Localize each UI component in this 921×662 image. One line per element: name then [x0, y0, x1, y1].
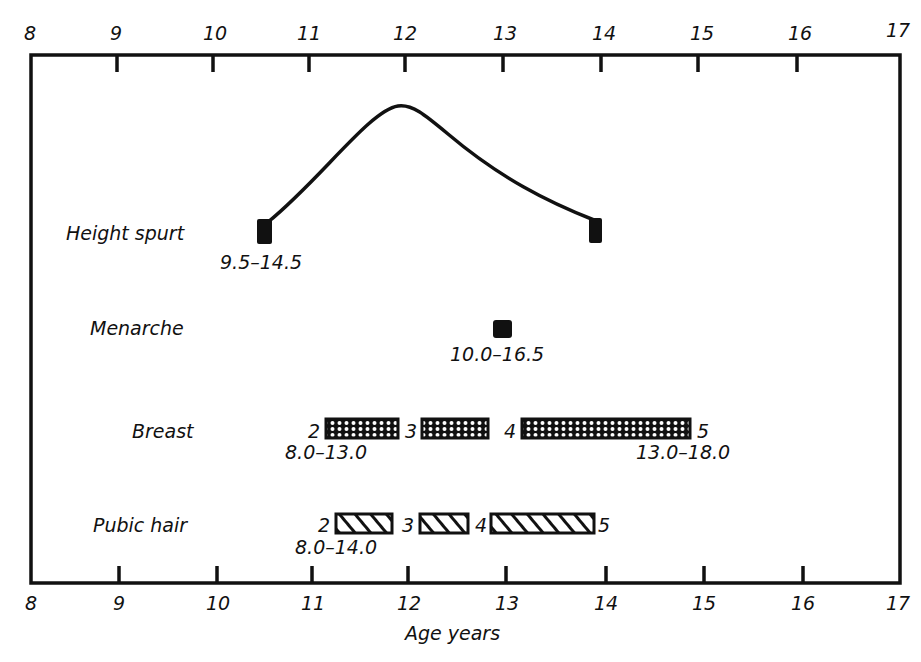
tick-label: 15 [692, 592, 716, 614]
range-label: 13.0–18.0 [636, 441, 730, 463]
breast-row: Breast 2 3 4 5 8.0–13.0 13.0–18.0 [132, 419, 730, 463]
tick-label: 17 [886, 19, 910, 41]
stage-label: 3 [405, 420, 417, 442]
top-axis-ticks [117, 55, 797, 72]
x-axis-title: Age years [403, 622, 500, 644]
pubic-hair-row: Pubic hair 2 3 4 5 8.0–14.0 [93, 514, 610, 558]
tick-label: 12 [393, 22, 417, 44]
range-label: 9.5–14.5 [220, 251, 302, 273]
row-label: Breast [132, 420, 195, 442]
row-label: Pubic hair [93, 514, 188, 536]
breast-stage-bar-3-4 [422, 419, 488, 438]
top-axis-labels: 8 9 10 11 12 13 14 15 16 17 [24, 19, 910, 44]
tick-label: 11 [297, 22, 321, 44]
tick-label: 10 [206, 592, 230, 614]
stage-label: 4 [475, 514, 487, 536]
range-label: 8.0–13.0 [285, 441, 367, 463]
row-label: Height spurt [66, 222, 186, 244]
menarche-marker [493, 320, 512, 338]
tick-label: 10 [203, 22, 227, 44]
puberty-timeline-chart: 8 9 10 11 12 13 14 15 16 17 8 9 10 11 12… [0, 0, 921, 662]
tick-label: 12 [397, 592, 421, 614]
range-label: 10.0–16.5 [450, 343, 544, 365]
height-spurt-end-marker [589, 218, 602, 243]
tick-label: 9 [113, 592, 125, 614]
stage-label: 4 [504, 420, 516, 442]
pubic-stage-bar-3-4 [420, 514, 468, 533]
height-spurt-curve [268, 106, 594, 222]
tick-label: 16 [788, 22, 812, 44]
tick-label: 13 [495, 592, 519, 614]
tick-label: 8 [24, 22, 36, 44]
tick-label: 11 [301, 592, 325, 614]
tick-label: 8 [25, 592, 37, 614]
bottom-axis-labels: 8 9 10 11 12 13 14 15 16 17 [25, 592, 910, 614]
stage-label: 5 [598, 514, 610, 536]
height-spurt-row: Height spurt 9.5–14.5 [66, 106, 602, 273]
tick-label: 14 [592, 22, 616, 44]
height-spurt-start-marker [257, 219, 272, 244]
stage-label: 2 [318, 514, 330, 536]
range-label: 8.0–14.0 [295, 536, 377, 558]
tick-label: 16 [791, 592, 815, 614]
tick-label: 17 [886, 592, 910, 614]
tick-label: 13 [493, 22, 517, 44]
pubic-stage-bar-2-3 [336, 514, 392, 533]
stage-label: 2 [308, 420, 320, 442]
tick-label: 15 [690, 22, 714, 44]
tick-label: 14 [594, 592, 618, 614]
menarche-row: Menarche 10.0–16.5 [90, 317, 544, 365]
stage-label: 5 [697, 420, 709, 442]
pubic-stage-bar-4-5 [491, 514, 594, 533]
row-label: Menarche [90, 317, 184, 339]
tick-label: 9 [110, 22, 122, 44]
breast-stage-bar-2-3 [326, 419, 398, 438]
stage-label: 3 [402, 514, 414, 536]
breast-stage-bar-4-5 [522, 419, 690, 438]
bottom-axis-ticks [119, 566, 803, 583]
